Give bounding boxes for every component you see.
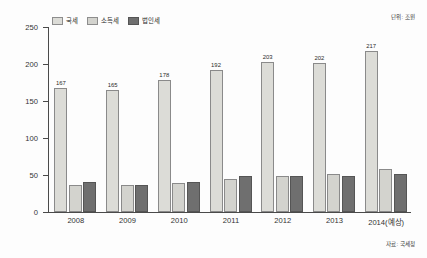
x-label-2008: 2008 [67, 216, 84, 225]
bar-wrap: 167 [54, 27, 67, 212]
bar-group-2014(예상): 217 [365, 27, 407, 212]
y-tick-label-250: 250 [0, 23, 38, 32]
legend-label-0: 국세 [66, 16, 78, 25]
legend-item-2[interactable]: 법인세 [128, 16, 160, 25]
bar-group-2011: 192 [210, 27, 252, 212]
bar-wrap [121, 27, 134, 212]
bar-value-label: 165 [108, 82, 118, 88]
y-tick-0 [43, 212, 49, 213]
bar-value-label: 202 [315, 55, 325, 61]
bar-wrap [172, 27, 185, 212]
x-label-2014(예상): 2014(예상) [368, 216, 404, 227]
bar-wrap [394, 27, 407, 212]
bar-wrap [83, 27, 96, 212]
bar-wrap [342, 27, 355, 212]
bar-소득세-2009[interactable] [121, 185, 134, 212]
bar-value-label: 167 [56, 80, 66, 86]
bar-법인세-2014(예상)[interactable] [394, 174, 407, 212]
bar-국세-2012[interactable] [261, 62, 274, 212]
bar-wrap [290, 27, 303, 212]
y-tick-label-0: 0 [0, 208, 38, 217]
bar-value-label: 192 [211, 62, 221, 68]
bar-value-label: 217 [366, 43, 376, 49]
bar-법인세-2012[interactable] [290, 176, 303, 212]
plot-area: 167165178192203202217 [48, 27, 410, 212]
bar-법인세-2008[interactable] [83, 182, 96, 212]
chart-legend: 국세소득세법인세 [52, 16, 160, 25]
x-label-2011: 2011 [223, 216, 239, 225]
bar-국세-2011[interactable] [210, 70, 223, 212]
bar-국세-2013[interactable] [313, 63, 326, 212]
bar-group-2009: 165 [106, 27, 148, 212]
legend-item-1[interactable]: 소득세 [87, 16, 119, 25]
bar-wrap [276, 27, 289, 212]
bar-value-label: 203 [263, 54, 273, 60]
bar-group-2013: 202 [313, 27, 355, 212]
bar-소득세-2010[interactable] [172, 183, 185, 212]
bar-wrap: 202 [313, 27, 326, 212]
bar-국세-2014(예상)[interactable] [365, 51, 378, 212]
bar-소득세-2011[interactable] [224, 179, 237, 212]
bar-wrap [69, 27, 82, 212]
bar-법인세-2011[interactable] [239, 176, 252, 212]
bar-wrap [239, 27, 252, 212]
bar-wrap [224, 27, 237, 212]
bar-group-2008: 167 [54, 27, 96, 212]
bar-value-label: 178 [159, 72, 169, 78]
unit-note: 단위: 조원 [391, 13, 415, 21]
legend-swatch-icon-1 [87, 17, 98, 25]
bar-wrap [327, 27, 340, 212]
bar-wrap: 178 [158, 27, 171, 212]
x-label-2010: 2010 [171, 216, 188, 225]
legend-label-2: 법인세 [142, 16, 160, 25]
bar-소득세-2014(예상)[interactable] [379, 169, 392, 212]
bar-chart: 단위: 조원 자료: 국세청 국세소득세법인세 050100150200250 … [0, 0, 427, 258]
y-tick-label-200: 200 [0, 60, 38, 69]
x-label-2012: 2012 [274, 216, 291, 225]
bar-국세-2009[interactable] [106, 90, 119, 212]
legend-item-0[interactable]: 국세 [52, 16, 78, 25]
bar-소득세-2013[interactable] [327, 174, 340, 212]
bar-법인세-2010[interactable] [187, 182, 200, 212]
bar-wrap: 203 [261, 27, 274, 212]
bar-wrap [187, 27, 200, 212]
bar-법인세-2009[interactable] [135, 185, 148, 212]
bar-group-2012: 203 [261, 27, 303, 212]
source-note: 자료: 국세청 [386, 240, 415, 248]
bar-wrap: 217 [365, 27, 378, 212]
bar-wrap: 192 [210, 27, 223, 212]
bar-국세-2010[interactable] [158, 80, 171, 212]
bar-법인세-2013[interactable] [342, 176, 355, 212]
bar-wrap [135, 27, 148, 212]
bar-소득세-2012[interactable] [276, 176, 289, 212]
y-tick-label-50: 50 [0, 171, 38, 180]
bar-wrap: 165 [106, 27, 119, 212]
bar-group-2010: 178 [158, 27, 200, 212]
y-tick-label-100: 100 [0, 134, 38, 143]
x-label-2013: 2013 [326, 216, 343, 225]
y-tick-label-150: 150 [0, 97, 38, 106]
bar-wrap [379, 27, 392, 212]
x-label-2009: 2009 [119, 216, 136, 225]
legend-swatch-icon-2 [128, 17, 139, 25]
bar-소득세-2008[interactable] [69, 185, 82, 212]
legend-swatch-icon-0 [52, 17, 63, 25]
bar-국세-2008[interactable] [54, 88, 67, 212]
legend-label-1: 소득세 [101, 16, 119, 25]
x-axis-line [48, 212, 411, 213]
